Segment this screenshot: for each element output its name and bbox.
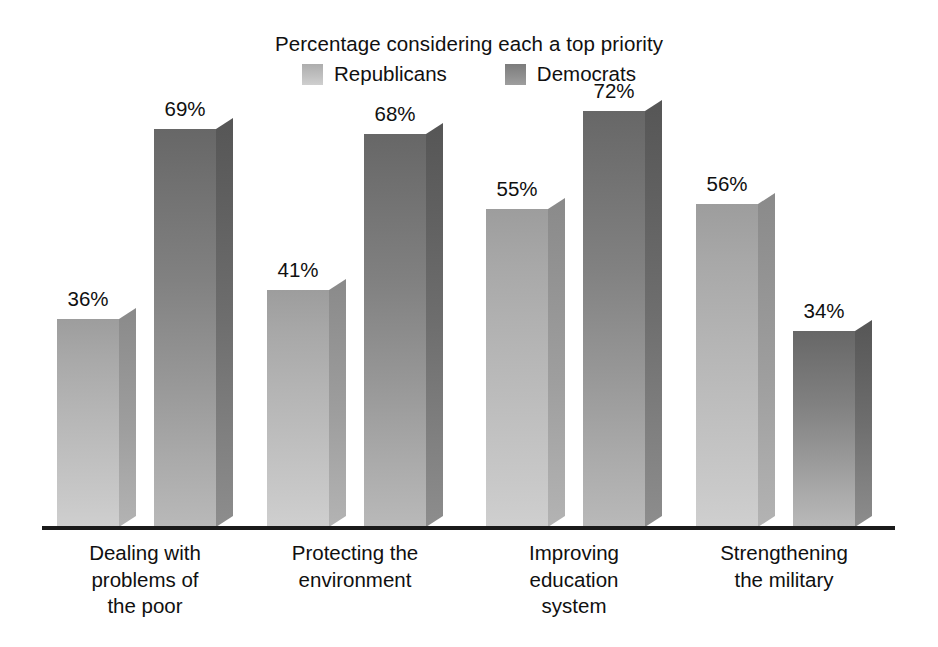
category-label-line: Strengthening [674, 540, 894, 567]
category-label-3: Strengtheningthe military [674, 540, 894, 593]
bar-value-democrats-0: 69% [144, 97, 226, 121]
bar-republicans-3 [696, 204, 758, 527]
bar-value-republicans-1: 41% [257, 258, 339, 282]
bar-value-democrats-2: 72% [573, 79, 655, 103]
category-axis-baseline [42, 526, 895, 530]
bar-value-republicans-2: 55% [476, 177, 558, 201]
bar-value-republicans-3: 56% [686, 172, 768, 196]
category-label-line: the poor [35, 593, 255, 620]
bar-republicans-2 [486, 209, 548, 527]
category-label-line: system [464, 593, 684, 620]
bar-democrats-1 [364, 134, 426, 527]
category-label-line: Improving [464, 540, 684, 567]
plot-area: 36% 69% 41% 68% 55% [0, 0, 938, 647]
bar-side-face [329, 279, 346, 527]
bar-front-face [793, 331, 855, 527]
category-label-0: Dealing withproblems ofthe poor [35, 540, 255, 620]
bar-side-face [855, 320, 872, 527]
bar-democrats-0 [154, 129, 216, 527]
category-label-line: the military [674, 567, 894, 594]
bar-democrats-3 [793, 331, 855, 527]
bar-front-face [267, 290, 329, 527]
bar-value-democrats-1: 68% [354, 102, 436, 126]
bar-chart: Percentage considering each a top priori… [0, 0, 938, 647]
category-label-line: problems of [35, 567, 255, 594]
bar-front-face [696, 204, 758, 527]
bar-side-face [119, 308, 136, 527]
category-label-2: Improvingeducationsystem [464, 540, 684, 620]
bar-side-face [216, 118, 233, 527]
category-label-line: Dealing with [35, 540, 255, 567]
bar-side-face [548, 198, 565, 527]
category-label-line: Protecting the [245, 540, 465, 567]
bar-value-republicans-0: 36% [47, 287, 129, 311]
bar-democrats-2 [583, 111, 645, 527]
bar-front-face [583, 111, 645, 527]
category-label-1: Protecting theenvironment [245, 540, 465, 593]
bar-front-face [364, 134, 426, 527]
bar-republicans-0 [57, 319, 119, 527]
bar-front-face [154, 129, 216, 527]
bar-front-face [486, 209, 548, 527]
bar-side-face [645, 100, 662, 527]
bar-value-democrats-3: 34% [783, 299, 865, 323]
category-label-line: education [464, 567, 684, 594]
bar-republicans-1 [267, 290, 329, 527]
bar-side-face [426, 123, 443, 527]
bar-front-face [57, 319, 119, 527]
bar-side-face [758, 193, 775, 527]
category-label-line: environment [245, 567, 465, 594]
